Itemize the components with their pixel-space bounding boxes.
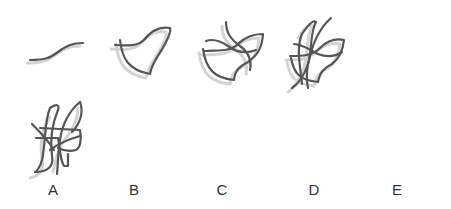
sequence-step-4 (286, 18, 344, 92)
option-d-label[interactable]: D (304, 181, 324, 199)
option-a-figure[interactable] (30, 102, 82, 178)
sequence-step-1 (27, 43, 83, 63)
sequence-step-2 (111, 28, 170, 78)
option-c-label[interactable]: C (212, 181, 232, 199)
puzzle-figure (0, 0, 451, 209)
option-a-label[interactable]: A (43, 181, 63, 199)
sequence-step-3 (199, 22, 263, 84)
option-e-label[interactable]: E (387, 181, 407, 199)
option-b-label[interactable]: B (124, 181, 144, 199)
